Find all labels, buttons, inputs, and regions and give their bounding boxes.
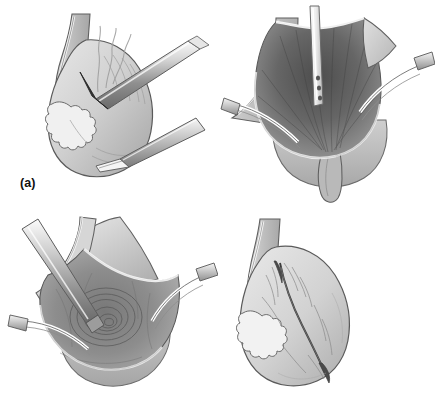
dependent-outlet	[318, 152, 342, 202]
figure-container: (a)	[0, 0, 435, 409]
panel-a-artwork	[0, 0, 218, 205]
panel-b-artwork	[218, 0, 435, 205]
retractor-right-tip	[196, 263, 218, 281]
panel-d: (d)	[218, 205, 435, 409]
panel-a: (a)	[0, 0, 218, 205]
retractor-left-tip	[8, 315, 28, 331]
panel-c: (c)	[0, 205, 218, 409]
panel-b: (b)	[218, 0, 435, 205]
wall-flap-right	[363, 18, 396, 68]
panel-d-artwork	[218, 205, 435, 409]
panel-a-label: (a)	[20, 176, 36, 190]
retractor-left-tip	[221, 98, 240, 115]
retractor-right-tip	[414, 52, 435, 70]
panel-c-artwork	[0, 205, 218, 409]
